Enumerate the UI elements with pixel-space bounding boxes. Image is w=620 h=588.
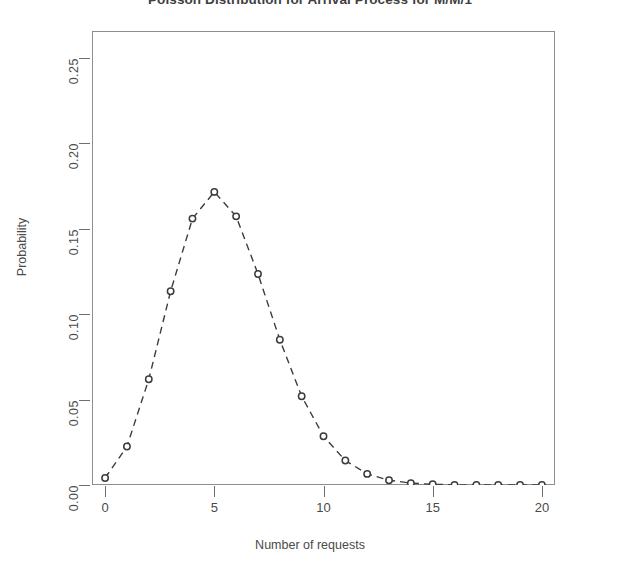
data-point-marker	[408, 480, 414, 485]
x-axis-tick-mark	[105, 486, 106, 497]
y-axis-title: Probability	[15, 218, 29, 276]
data-point-marker	[102, 475, 108, 481]
data-point-marker	[495, 482, 501, 485]
x-axis-tick-mark	[214, 486, 215, 497]
data-point-marker	[517, 482, 523, 485]
data-point-marker	[189, 215, 195, 221]
data-point-marker	[430, 481, 436, 485]
x-axis-title: Number of requests	[0, 538, 620, 552]
poisson-series-plot	[92, 31, 555, 485]
data-point-marker	[298, 393, 304, 399]
x-axis-tick-label: 10	[316, 500, 330, 515]
x-axis-tick-mark	[542, 486, 543, 497]
x-axis-tick-mark	[324, 486, 325, 497]
data-point-marker	[124, 443, 130, 449]
x-axis-tick-mark	[433, 486, 434, 497]
data-point-marker	[211, 189, 217, 195]
x-axis-tick-label: 15	[425, 500, 439, 515]
x-axis-tick-label: 0	[101, 500, 108, 515]
data-point-marker	[364, 471, 370, 477]
data-point-marker	[386, 477, 392, 483]
series-line	[105, 192, 542, 485]
chart-title: Poisson Distribution for Arrival Process…	[0, 0, 620, 7]
data-point-marker	[255, 271, 261, 277]
poisson-chart-figure: Poisson Distribution for Arrival Process…	[0, 0, 620, 588]
data-point-marker	[167, 288, 173, 294]
data-point-marker	[451, 482, 457, 485]
x-axis-tick-label: 5	[211, 500, 218, 515]
data-point-marker	[539, 482, 545, 485]
data-point-marker	[342, 457, 348, 463]
x-axis-tick-label: 20	[535, 500, 549, 515]
data-point-marker	[277, 337, 283, 343]
data-point-marker	[233, 213, 239, 219]
data-point-marker	[473, 482, 479, 485]
data-point-marker	[146, 376, 152, 382]
data-point-marker	[320, 433, 326, 439]
